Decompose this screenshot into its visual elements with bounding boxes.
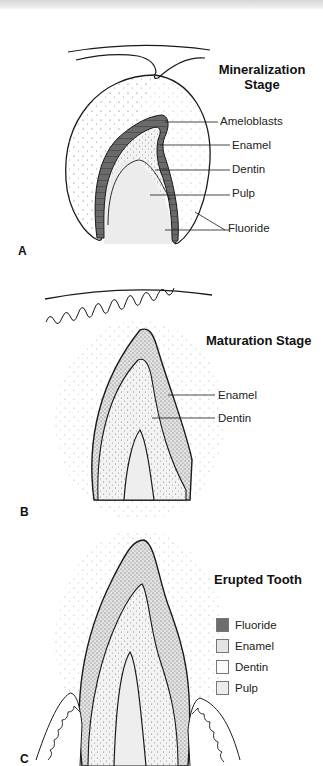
legend-label: Dentin (235, 661, 268, 673)
legend-label: Enamel (235, 640, 274, 652)
label-enamel-a: Enamel (232, 139, 271, 152)
panel-b-letter: B (20, 505, 29, 519)
legend-item-fluoride: Fluoride (216, 614, 277, 635)
legend-item-dentin: Dentin (216, 656, 277, 677)
legend: Fluoride Enamel Dentin Pulp (216, 614, 277, 698)
label-dentin-b: Dentin (218, 412, 251, 425)
pulp-swatch (216, 681, 229, 695)
fluoride-swatch (216, 618, 229, 632)
panel-a-letter: A (18, 244, 27, 258)
panel-a-title: Mineralization Stage (212, 62, 312, 92)
legend-label: Pulp (235, 682, 258, 694)
panel-c-drawing (36, 530, 240, 766)
panel-a-title-line1: Mineralization (212, 62, 312, 77)
enamel-swatch (216, 639, 229, 653)
legend-item-pulp: Pulp (216, 677, 277, 698)
dentin-swatch (216, 660, 229, 674)
label-dentin-a: Dentin (232, 163, 265, 176)
label-enamel-b: Enamel (218, 389, 257, 402)
label-pulp-a: Pulp (232, 187, 255, 200)
panel-b-drawing (45, 288, 225, 520)
legend-item-enamel: Enamel (216, 635, 277, 656)
legend-label: Fluoride (235, 619, 277, 631)
panel-c-letter: C (20, 752, 29, 766)
panel-a-title-line2: Stage (212, 77, 312, 92)
panel-c-title: Erupted Tooth (214, 572, 302, 587)
panel-b-title: Maturation Stage (206, 333, 311, 348)
label-fluoride-a: Fluoride (228, 222, 270, 235)
label-ameloblasts: Ameloblasts (220, 115, 283, 128)
